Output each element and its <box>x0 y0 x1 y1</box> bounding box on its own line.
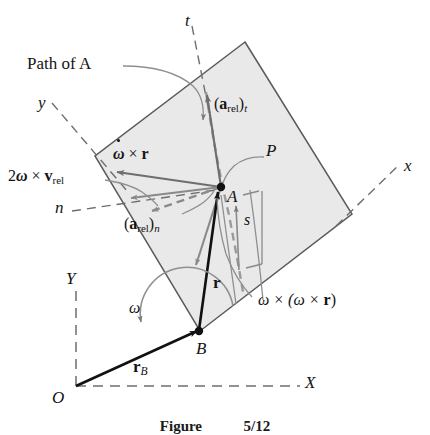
caption-number: 5/12 <box>244 418 271 434</box>
label-omega-at-b: ω <box>129 300 140 316</box>
label-a-rel-n: (arel)n <box>124 216 160 234</box>
label-n-axis: n <box>55 199 64 216</box>
r-b-symbol: r <box>133 357 141 376</box>
coriolis-omega: ω <box>16 167 28 184</box>
label-point-a: A <box>227 188 237 205</box>
label-X-axis: X <box>305 374 315 391</box>
coriolis-coefficient: 2 <box>8 167 16 184</box>
centripetal-r-symbol: r <box>324 291 331 308</box>
point-a-marker <box>217 183 225 191</box>
omega-dot-symbol: ω <box>113 145 125 162</box>
label-omega-dot-cross-r: ω × r <box>113 146 149 162</box>
omega-dot-r-symbol: r <box>142 145 149 162</box>
point-b-marker <box>195 327 203 335</box>
coriolis-v-subscript: rel <box>53 174 64 186</box>
centripetal-paren-close: ) <box>331 291 336 308</box>
r-b-subscript: B <box>141 365 148 378</box>
a-rel-n-subscript: rel <box>137 222 148 234</box>
label-a-rel-t: (arel)t <box>214 96 247 114</box>
caption-label: Figure <box>160 418 202 434</box>
omega-dot-cross-sign: × <box>129 145 138 162</box>
label-y-axis: y <box>38 94 46 111</box>
label-Y-axis: Y <box>66 270 75 287</box>
label-coriolis: 2ω × vrel <box>8 168 64 186</box>
coriolis-cross-sign: × <box>32 167 41 184</box>
label-x-axis: x <box>404 157 412 174</box>
label-point-p: P <box>266 142 276 159</box>
omega-dot-accent <box>117 139 120 142</box>
label-arc-s: s <box>244 212 250 228</box>
path-of-a-text: Path of A <box>27 54 91 73</box>
label-path-of-a: Path of A <box>27 55 91 72</box>
label-t-axis: t <box>185 12 190 29</box>
label-centripetal: ω × (ω × r) <box>258 292 336 308</box>
a-rel-t-subscript: rel <box>227 102 238 114</box>
label-vector-r: r <box>213 274 221 291</box>
coriolis-v-symbol: v <box>45 167 53 184</box>
centripetal-prefix: ω × (ω × <box>258 291 324 308</box>
a-rel-t-component: t <box>244 102 247 114</box>
label-origin: O <box>52 389 64 406</box>
label-point-b: B <box>196 340 206 357</box>
label-vector-r-b: rB <box>133 358 148 377</box>
figure-caption: Figure 5/12 <box>0 418 430 435</box>
a-rel-n-component: n <box>154 222 159 234</box>
